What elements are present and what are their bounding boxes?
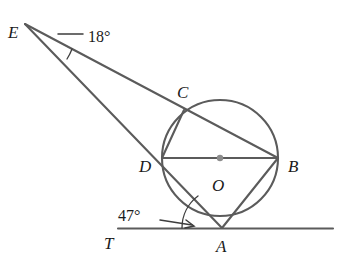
secant-line-eda: [25, 24, 222, 228]
center-point-dot: [217, 155, 223, 161]
secant-line-ecb: [25, 24, 278, 158]
geometry-figure: E C D B O A T 18° 47°: [0, 0, 338, 262]
angle-label-47: 47°: [118, 207, 140, 224]
chord-ab: [222, 158, 278, 228]
angle-label-18: 18°: [88, 28, 110, 45]
point-label-o: O: [212, 176, 224, 195]
point-label-d: D: [138, 157, 152, 176]
point-label-b: B: [288, 157, 299, 176]
point-label-a: A: [215, 237, 227, 256]
angle-arc-e: [67, 49, 72, 59]
chord-dc: [162, 110, 184, 158]
point-label-c: C: [177, 83, 189, 102]
point-label-t: T: [104, 234, 115, 253]
point-label-e: E: [7, 23, 19, 42]
